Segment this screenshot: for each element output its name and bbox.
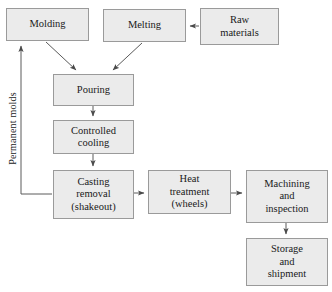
node-machining-inspection-line-0: Machining (264, 178, 310, 191)
node-melting[interactable]: Melting (103, 9, 186, 42)
node-storage-shipment-line-0: Storage (271, 243, 303, 256)
edge-molding-to-pouring (46, 42, 76, 70)
node-storage-shipment[interactable]: Storage and shipment (246, 238, 328, 286)
node-controlled-cooling-line-1: cooling (78, 137, 110, 150)
node-heat-treatment-line-1: treatment (170, 186, 210, 199)
node-raw-materials-line-0: Raw (230, 14, 249, 27)
node-molding-line-0: Molding (29, 18, 65, 31)
node-casting-removal-line-0: Casting (77, 176, 109, 189)
node-machining-inspection[interactable]: Machining and inspection (246, 170, 328, 223)
node-pouring[interactable]: Pouring (53, 74, 134, 106)
node-heat-treatment-line-2: (wheels) (171, 198, 207, 211)
node-machining-inspection-line-1: and (279, 190, 294, 203)
node-storage-shipment-line-1: and (279, 256, 294, 269)
node-controlled-cooling[interactable]: Controlled cooling (53, 120, 134, 154)
edge-shakeout-to-molding-feedback (21, 46, 52, 194)
node-molding[interactable]: Molding (6, 8, 89, 41)
node-heat-treatment-line-0: Heat (180, 173, 200, 186)
edge-label-permanent-molds: Permanent molds (7, 73, 18, 185)
flowchart-canvas: Molding Melting Raw materials Pouring Co… (0, 0, 332, 292)
node-casting-removal-line-2: (shakeout) (71, 201, 115, 214)
node-machining-inspection-line-2: inspection (265, 203, 308, 216)
node-controlled-cooling-line-0: Controlled (71, 125, 116, 138)
node-storage-shipment-line-2: shipment (268, 268, 307, 281)
node-casting-removal-line-1: removal (76, 188, 110, 201)
edge-melting-to-pouring (113, 43, 142, 70)
node-raw-materials-line-1: materials (220, 27, 258, 40)
node-melting-line-0: Melting (128, 19, 161, 32)
node-heat-treatment[interactable]: Heat treatment (wheels) (148, 170, 231, 214)
node-casting-removal[interactable]: Casting removal (shakeout) (53, 170, 134, 219)
node-pouring-line-0: Pouring (77, 84, 110, 97)
node-raw-materials[interactable]: Raw materials (200, 8, 279, 45)
